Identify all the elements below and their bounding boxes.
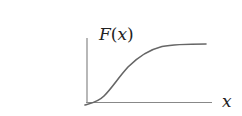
x-axis-label: x [222,91,232,111]
cdf-diagram: F(x) x [0,0,242,116]
y-axis-label: F(x) [98,24,134,44]
cdf-curve [85,44,206,105]
